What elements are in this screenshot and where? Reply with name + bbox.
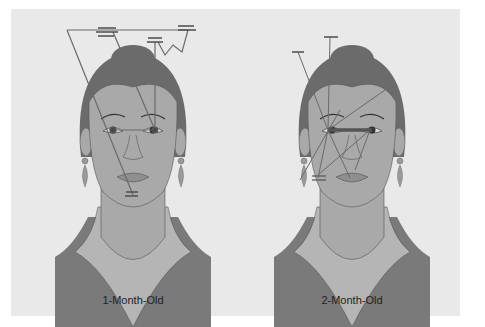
face-2-month (274, 45, 430, 327)
caption-2-month: 2-Month-Old (277, 294, 427, 306)
illustration (0, 0, 485, 327)
face-1-month (55, 45, 211, 327)
caption-1-month: 1-Month-Old (58, 294, 208, 306)
